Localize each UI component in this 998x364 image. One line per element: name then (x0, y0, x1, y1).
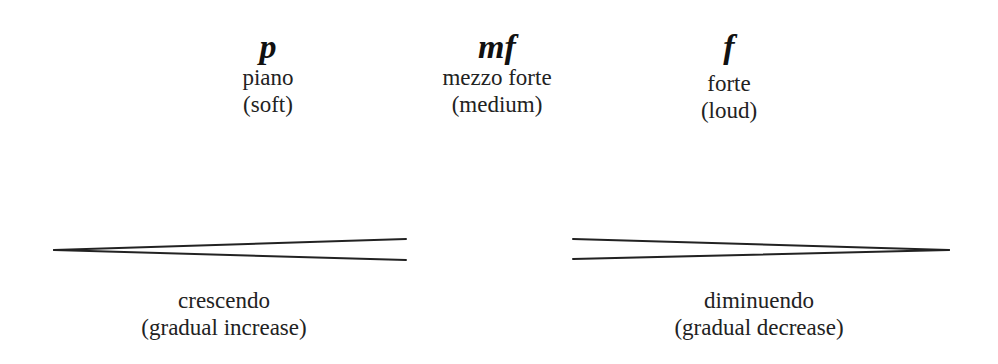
diminuendo-name: diminuendo (674, 287, 843, 314)
diminuendo-hairpin-icon (573, 239, 949, 259)
crescendo-label: crescendo (gradual increase) (141, 287, 306, 341)
diminuendo-meaning: (gradual decrease) (674, 314, 843, 341)
crescendo-name: crescendo (141, 287, 306, 314)
diminuendo-label: diminuendo (gradual decrease) (674, 287, 843, 341)
crescendo-meaning: (gradual increase) (141, 314, 306, 341)
crescendo-hairpin-icon (54, 239, 406, 260)
